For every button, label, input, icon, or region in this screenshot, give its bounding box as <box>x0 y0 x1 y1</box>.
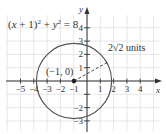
y-tick-label: −2 <box>73 103 83 113</box>
x-tick-label: 2 <box>111 84 116 94</box>
x-tick-label: −3 <box>42 84 52 94</box>
y-axis-label: y <box>78 4 83 14</box>
grid <box>6 15 160 131</box>
center-point <box>72 79 77 84</box>
x-axis-label: x <box>155 85 160 95</box>
y-ticks: 4321−2−3 <box>73 23 90 126</box>
center-label: (−1, 0) <box>46 66 73 78</box>
x-tick-label: −5 <box>16 84 26 94</box>
x-axis <box>6 79 162 84</box>
y-axis <box>85 7 90 132</box>
radius-label: 2√2 units <box>108 42 146 53</box>
x-tick-label: −1 <box>69 84 79 94</box>
x-axis-arrow-icon <box>155 79 162 84</box>
x-tick-label: 4 <box>138 84 143 94</box>
x-tick-label: 1 <box>98 84 103 94</box>
x-tick-label: −2 <box>56 84 66 94</box>
y-axis-arrow-icon <box>85 7 90 14</box>
y-tick-label: 2 <box>79 49 84 59</box>
y-tick-label: 4 <box>79 23 84 33</box>
equation-label: (x + 1)2 + y2 = 8 <box>8 18 79 31</box>
x-tick-label: 3 <box>125 84 130 94</box>
circle-graph-figure: −5−4−3−2−11234 4321−2−3 x y (x + 1)2 + y… <box>0 0 166 134</box>
y-tick-label: 1 <box>79 63 84 73</box>
